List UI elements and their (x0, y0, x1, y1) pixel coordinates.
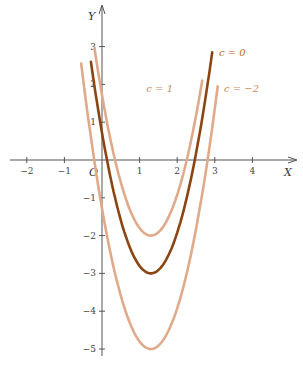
label-c-2: c = −2 (224, 83, 259, 94)
y-tick-label: −4 (83, 306, 97, 316)
curve-c1 (95, 49, 203, 236)
axes: −2−11234321−1−2−3−4−5YXO (10, 5, 297, 356)
y-axis-label: Y (88, 10, 97, 23)
x-tick-label: 3 (212, 166, 218, 176)
x-tick-label: 4 (250, 166, 256, 176)
x-tick-label: 2 (174, 166, 180, 176)
y-tick-label: −5 (83, 344, 97, 354)
label-c0: c = 0 (219, 47, 246, 58)
x-tick-label: −1 (58, 166, 71, 176)
x-tick-label: 1 (137, 166, 143, 176)
x-tick-label: −2 (20, 166, 33, 176)
chart: −2−11234321−1−2−3−4−5YXO c = 0c = 1c = −… (0, 0, 303, 367)
x-axis-label: X (283, 166, 293, 179)
labels: c = 0c = 1c = −2 (146, 47, 259, 94)
y-tick-label: −3 (83, 268, 97, 278)
y-tick-label: −1 (83, 193, 96, 203)
y-tick-label: −2 (83, 231, 96, 241)
y-tick-label: 1 (90, 117, 96, 127)
label-c1: c = 1 (146, 83, 173, 94)
